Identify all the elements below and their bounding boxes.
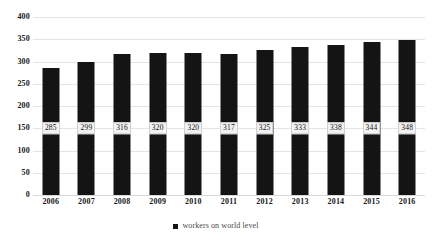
y-axis-tick-label: 350: [0, 35, 30, 43]
bar[interactable]: [399, 40, 416, 195]
bar-group: 285: [35, 17, 67, 195]
bar-chart: 050100150200250300350400 285299316320320…: [0, 0, 432, 241]
x-axis-tick-label: 2015: [356, 198, 388, 206]
bar-group: 299: [70, 17, 102, 195]
y-axis-tick-label: 50: [0, 169, 30, 177]
x-axis-tick-label: 2010: [177, 198, 209, 206]
bar-value-label: 320: [184, 122, 202, 135]
bar-value-label: 325: [256, 122, 274, 135]
bar-value-label: 338: [327, 122, 345, 135]
legend-label: workers on world level: [182, 222, 258, 230]
x-axis-tick-label: 2009: [142, 198, 174, 206]
bar-group: 344: [356, 17, 388, 195]
bar-group: 320: [177, 17, 209, 195]
bar[interactable]: [292, 47, 309, 195]
bar-group: 317: [213, 17, 245, 195]
bar-value-label: 317: [220, 122, 238, 135]
y-axis: 050100150200250300350400: [0, 0, 30, 241]
x-axis-tick-label: 2006: [35, 198, 67, 206]
y-axis-tick-label: 250: [0, 80, 30, 88]
y-axis-tick-label: 0: [0, 191, 30, 199]
bar-value-label: 316: [113, 122, 131, 135]
x-axis-tick-label: 2008: [106, 198, 138, 206]
bar-group: 348: [391, 17, 423, 195]
bar-group: 333: [284, 17, 316, 195]
legend: workers on world level: [0, 222, 432, 230]
y-axis-tick-label: 300: [0, 58, 30, 66]
x-axis-tick-label: 2011: [213, 198, 245, 206]
x-axis: 2006200720082009201020112012201320142015…: [33, 198, 425, 214]
x-axis-tick-label: 2016: [391, 198, 423, 206]
bar[interactable]: [363, 42, 380, 195]
bar-group: 320: [142, 17, 174, 195]
x-axis-tick-label: 2013: [284, 198, 316, 206]
bars: 285299316320320317325333338344348: [33, 17, 425, 195]
x-axis-tick-label: 2007: [70, 198, 102, 206]
gridline: [33, 195, 425, 196]
bar-value-label: 333: [291, 122, 309, 135]
bar-group: 338: [320, 17, 352, 195]
bar-value-label: 348: [398, 122, 416, 135]
bar[interactable]: [327, 45, 344, 195]
legend-swatch-icon: [173, 224, 178, 229]
bar-value-label: 299: [78, 122, 96, 135]
bar-group: 325: [249, 17, 281, 195]
plot-area: 285299316320320317325333338344348: [33, 17, 425, 195]
y-axis-tick-label: 200: [0, 102, 30, 110]
x-axis-tick-label: 2014: [320, 198, 352, 206]
y-axis-tick-label: 400: [0, 13, 30, 21]
y-axis-tick-label: 150: [0, 124, 30, 132]
y-axis-tick-label: 100: [0, 147, 30, 155]
bar-value-label: 320: [149, 122, 167, 135]
bar-value-label: 285: [42, 122, 60, 135]
bar-group: 316: [106, 17, 138, 195]
bar-value-label: 344: [363, 122, 381, 135]
x-axis-tick-label: 2012: [249, 198, 281, 206]
